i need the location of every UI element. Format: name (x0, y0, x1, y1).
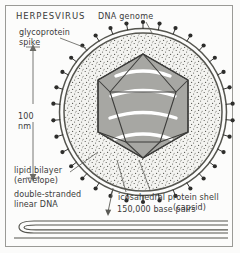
spike-head (60, 150, 64, 154)
figure-herpesvirus: HERPESVIRUS DNA genome glycoprotein spik… (0, 0, 240, 253)
linear-dna-strand (14, 221, 228, 238)
spike-head (231, 118, 235, 122)
spike-head (108, 26, 112, 30)
spike-head (188, 33, 192, 37)
label-dna-genome: DNA genome (98, 12, 153, 22)
spike-head (54, 85, 58, 89)
spike-head (221, 70, 225, 74)
spike-head (80, 176, 84, 180)
spike-head (51, 118, 55, 122)
label-glycoprotein-spike: glycoprotein spike (19, 28, 70, 47)
label-scale-100nm: 100 nm (18, 112, 34, 131)
label-base-pairs: 150,000 base pairs (117, 205, 196, 215)
spike-head (124, 21, 128, 25)
spike-head (202, 176, 206, 180)
spike-head (60, 70, 64, 74)
spike-head (202, 43, 206, 47)
spike-head (173, 26, 177, 30)
spike-head (69, 164, 73, 168)
spike-head (231, 102, 235, 106)
figure-title: HERPESVIRUS (16, 12, 85, 22)
label-lipid-bilayer: lipid bilayer (envelope) (14, 166, 62, 185)
leader-dna-genome (146, 22, 152, 33)
spike-head (227, 135, 231, 139)
spike-head (94, 33, 98, 37)
leader-base-pairs (105, 188, 113, 216)
spike-head (157, 21, 161, 25)
spike-head (54, 135, 58, 139)
spike-head (227, 85, 231, 89)
spike-head (51, 102, 55, 106)
spike-head (188, 186, 192, 190)
spike-head (94, 186, 98, 190)
label-double-stranded-dna: double-stranded linear DNA (14, 190, 81, 209)
spike-head (221, 150, 225, 154)
label-icosahedral-protein-shell: icosahedral protein shell (118, 193, 219, 203)
spike-head (213, 164, 217, 168)
spike-head (69, 56, 73, 60)
spike-head (213, 56, 217, 60)
